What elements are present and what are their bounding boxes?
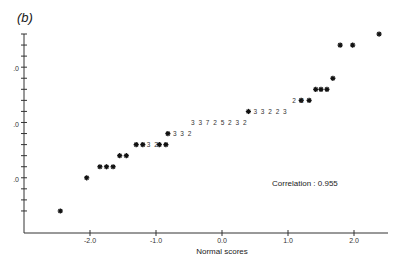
x-tick-label: 2.0 <box>349 237 359 244</box>
data-point <box>324 87 329 92</box>
data-point <box>111 164 116 169</box>
x-ticks: -2.0-1.00.01.02.0 <box>84 230 359 244</box>
data-point <box>246 109 251 114</box>
data-point <box>124 153 129 158</box>
data-point <box>117 153 122 158</box>
data-point <box>165 131 170 136</box>
count-label: 3 3 2 <box>173 130 192 137</box>
y-tick-label: .0 <box>13 65 19 72</box>
count-label: 2 <box>292 97 297 104</box>
data-point <box>134 142 139 147</box>
data-point <box>330 76 335 81</box>
data-point <box>338 43 343 48</box>
data-point <box>350 43 355 48</box>
correlation-annotation: Correlation : 0.955 <box>272 179 338 188</box>
count-labels: 3 23 3 23 3 7 2 5 2 3 23 3 2 2 322 <box>147 97 305 148</box>
data-point <box>104 164 109 169</box>
x-tick-label: 1.0 <box>283 237 293 244</box>
data-point <box>318 87 323 92</box>
data-point <box>97 164 102 169</box>
count-label: 3 3 7 2 5 2 3 2 <box>191 119 248 126</box>
data-point <box>163 142 168 147</box>
x-tick-label: -1.0 <box>150 237 162 244</box>
qq-plot: .0.0.0 -2.0-1.00.01.02.0 Normal scores C… <box>0 0 405 265</box>
x-axis-label: Normal scores <box>196 247 248 256</box>
count-label: 3 3 2 2 3 <box>253 108 287 115</box>
x-tick-label: -2.0 <box>84 237 96 244</box>
y-tick-label: .0 <box>13 121 19 128</box>
data-point <box>307 98 312 103</box>
data-point <box>313 87 318 92</box>
data-point <box>58 208 63 213</box>
y-ticks: .0.0.0 <box>13 34 27 211</box>
data-point <box>84 175 89 180</box>
y-tick-label: .0 <box>13 176 19 183</box>
data-point <box>140 142 145 147</box>
count-label: 2 <box>300 97 305 104</box>
data-point <box>376 31 381 36</box>
count-label: 3 2 <box>147 141 159 148</box>
x-tick-label: 0.0 <box>217 237 227 244</box>
